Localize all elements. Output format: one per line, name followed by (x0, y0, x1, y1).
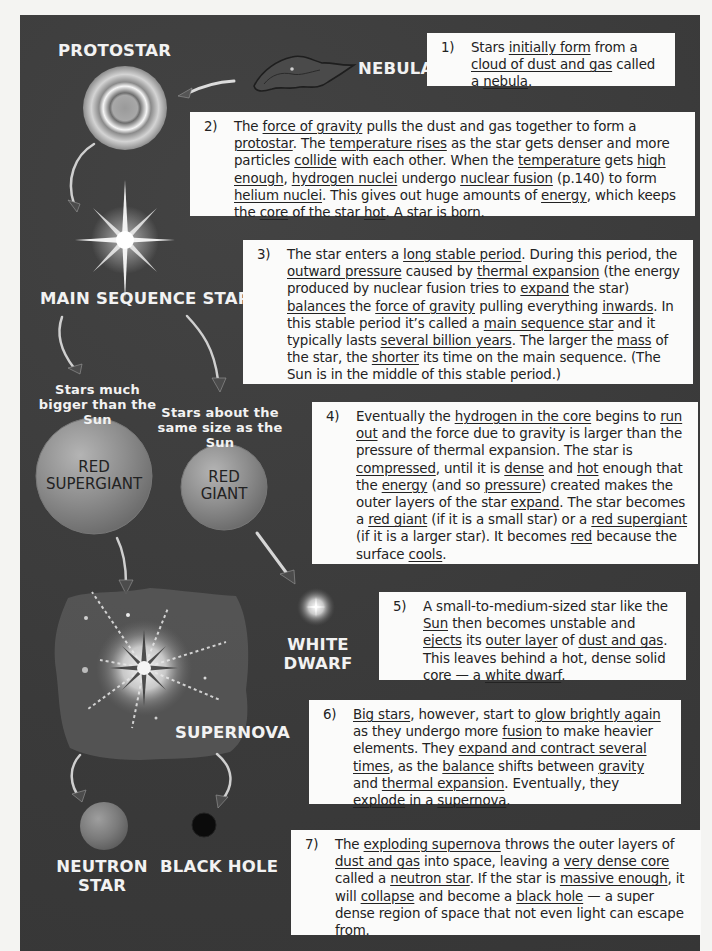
key-term: neutron star (390, 871, 470, 886)
key-term: balances (287, 299, 346, 314)
step-text: The exploding supernova throws the outer… (335, 837, 684, 938)
key-term: temperature (518, 153, 601, 168)
step-text: A small-to-medium-sized star like the Su… (423, 599, 668, 683)
step-text: Eventually the hydrogen in the core begi… (356, 409, 687, 562)
key-term: initially form (509, 40, 591, 55)
step-number: 1) (441, 39, 454, 56)
step-number: 3) (257, 246, 270, 263)
white-dwarf-label: WHITE DWARF (282, 636, 354, 674)
key-term: shorter (372, 350, 419, 365)
key-term: hydrogen nuclei (292, 171, 398, 186)
arrow-main-to-supergiant-icon (59, 317, 82, 374)
arrow-protostar-to-main-sequence-icon (68, 144, 94, 212)
key-term: red supergiant (591, 512, 687, 527)
key-term: protostar (234, 136, 293, 151)
key-term: temperature rises (330, 136, 447, 151)
key-term: gravity (598, 759, 644, 774)
key-term: nebula (483, 74, 528, 89)
key-term: red (571, 529, 593, 544)
step-number: 7) (305, 836, 318, 853)
key-term: ejects (423, 633, 462, 648)
red-supergiant-label: RED SUPERGIANT (38, 446, 150, 506)
key-term: red giant (368, 512, 427, 527)
arrow-supernova-to-neutron-star-icon (72, 755, 86, 802)
black-hole-icon (192, 813, 216, 837)
key-term: core (260, 205, 288, 220)
key-term: hot (364, 205, 385, 220)
key-term: long stable period (403, 247, 521, 262)
step-1-box: 1) Stars initially form from a cloud of … (427, 33, 675, 86)
step-number: 2) (204, 118, 217, 135)
arrow-supergiant-to-supernova-icon (117, 538, 133, 594)
key-term: energy (541, 188, 587, 203)
step-text: The force of gravity pulls the dust and … (234, 119, 676, 220)
step-number: 6) (323, 706, 336, 723)
step-7-box: 7) The exploding supernova throws the ou… (291, 830, 701, 935)
key-term: Big stars (353, 707, 410, 722)
bigger-stars-caption: Stars much bigger than the Sun (30, 383, 165, 428)
key-term: several billion years (381, 333, 512, 348)
key-term: supernova (437, 793, 506, 808)
black-hole-label: BLACK HOLE (160, 858, 278, 877)
key-term: white dwarf (485, 668, 561, 683)
key-term: black hole (516, 889, 583, 904)
step-3-box: 3) The star enters a long stable period.… (243, 240, 693, 384)
arrow-supernova-to-black-hole-icon (216, 754, 230, 808)
key-term: glow brightly again (535, 707, 661, 722)
protostar-label: PROTOSTAR (58, 42, 171, 61)
key-term: fusion (502, 724, 542, 739)
key-term: compressed (356, 461, 436, 476)
step-4-box: 4) Eventually the hydrogen in the core b… (312, 402, 698, 564)
key-term: expand (520, 281, 569, 296)
key-term: helium nuclei (234, 188, 322, 203)
key-term: Sun (423, 616, 448, 631)
main-sequence-star-icon (75, 180, 175, 300)
arrow-main-to-red-giant-icon (187, 316, 226, 392)
step-number: 4) (326, 408, 339, 425)
arrow-red-giant-to-white-dwarf-icon (257, 533, 295, 584)
key-term: expand (511, 495, 560, 510)
key-term: hot (577, 461, 598, 476)
key-term: force of gravity (375, 299, 475, 314)
key-term: main sequence star (484, 316, 614, 331)
key-term: thermal expansion (477, 264, 599, 279)
same-size-stars-caption: Stars about the same size as the Sun (150, 406, 290, 451)
key-term: outward pressure (287, 264, 402, 279)
key-term: collide (294, 153, 336, 168)
key-term: outer layer (486, 633, 558, 648)
key-term: balance (442, 759, 494, 774)
step-text: Big stars, however, start to glow bright… (353, 707, 661, 808)
key-term: nuclear fusion (460, 171, 553, 186)
key-term: cloud of dust and gas (471, 57, 612, 72)
step-text: Stars initially form from a cloud of dus… (471, 40, 655, 89)
red-giant-label: RED GIANT (190, 456, 258, 516)
supernova-label: SUPERNOVA (175, 724, 290, 743)
key-term: mass (617, 333, 652, 348)
key-term: exploding supernova (364, 837, 501, 852)
key-term: collapse (361, 889, 415, 904)
step-5-box: 5) A small-to-medium-sized star like the… (379, 592, 686, 680)
white-dwarf-icon (297, 588, 335, 626)
key-term: dense (504, 461, 544, 476)
key-term: thermal expansion (382, 776, 504, 791)
key-term: energy (382, 478, 428, 493)
key-term: inwards (602, 299, 653, 314)
key-term: pressure (484, 478, 541, 493)
key-term: force of gravity (263, 119, 363, 134)
arrow-nebula-to-protostar-icon (178, 81, 234, 98)
key-term: hydrogen in the core (455, 409, 592, 424)
key-term: cools (409, 547, 443, 562)
protostar-icon (83, 66, 167, 150)
key-term: very dense core (564, 854, 669, 869)
neutron-star-icon (80, 802, 128, 850)
step-2-box: 2) The force of gravity pulls the dust a… (190, 112, 695, 216)
nebula-icon (254, 56, 354, 91)
key-term: dust and gas (335, 854, 420, 869)
step-text: The star enters a long stable period. Du… (287, 247, 680, 382)
step-number: 5) (393, 598, 406, 615)
step-6-box: 6) Big stars, however, start to glow bri… (309, 700, 681, 804)
nebula-label: NEBULA (358, 60, 434, 79)
key-term: dust and gas (578, 633, 663, 648)
main-sequence-label: MAIN SEQUENCE STAR (40, 290, 251, 309)
neutron-star-label: NEUTRON STAR (52, 858, 152, 896)
